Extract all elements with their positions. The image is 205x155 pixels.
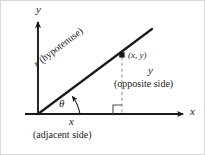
figure-canvas [0, 0, 205, 155]
x-axis-label: x [190, 106, 195, 117]
theta-angle-label: θ [59, 98, 64, 109]
point-coordinates-label: (x, y) [128, 51, 146, 60]
adjacent-side-text: (adjacent side) [33, 130, 92, 140]
opposite-side-text: (opposite side) [114, 79, 173, 89]
opposite-side-variable: y [148, 65, 153, 76]
trig-figure: y x (x, y) θ r (hypotenuse) y (opposite … [0, 0, 205, 155]
point-marker [119, 52, 124, 57]
y-axis-label: y [36, 4, 41, 15]
right-angle-marker [113, 105, 122, 114]
angle-arc [73, 97, 81, 115]
adjacent-side-variable: x [69, 116, 74, 127]
